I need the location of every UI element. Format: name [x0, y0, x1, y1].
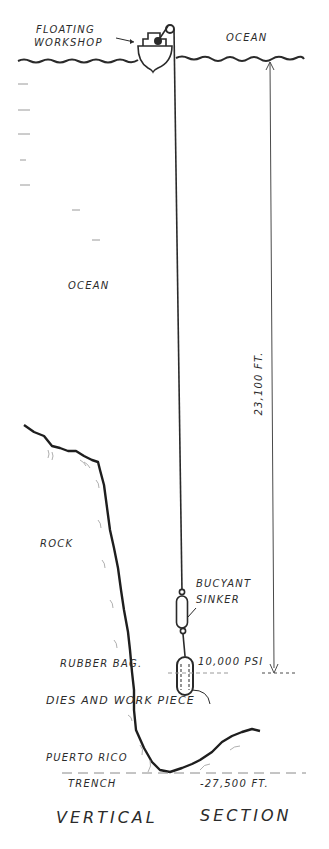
label-dies-and-work-piece: Dies And Work Piece: [46, 694, 195, 707]
label-buoyant-sinker-line1: Bucyant: [196, 578, 251, 589]
label-floating-workshop-line2: Workshop: [34, 37, 103, 48]
water-texture: [18, 84, 100, 240]
label-trench-depth: -27,500 Ft.: [200, 778, 269, 789]
cable-line: [174, 29, 182, 592]
label-puerto-rico: Puerto Rico: [46, 752, 128, 763]
label-ocean-mid: Ocean: [68, 280, 110, 291]
label-buoyant-sinker-line2: Sinker: [196, 594, 240, 605]
diagram-drawing: [0, 0, 329, 849]
label-rock: Rock: [40, 538, 73, 549]
buoyant-sinker-icon: [177, 589, 197, 656]
label-rubber-bag: Rubber Bag.: [60, 658, 142, 669]
label-ocean-surface: Ocean: [226, 32, 268, 43]
label-depth-dimension: 23,100 Ft.: [253, 351, 264, 415]
title-section: Section: [200, 806, 292, 825]
floating-workshop-ship-icon: [138, 25, 174, 72]
vertical-section-diagram: Floating Workshop Ocean Ocean 23,100 Ft.…: [0, 0, 329, 849]
rock-texture: [48, 450, 240, 772]
label-trench: Trench: [68, 778, 117, 789]
title-vertical: Vertical: [56, 808, 158, 827]
depth-dimension-line: [262, 62, 296, 673]
label-floating-workshop-line1: Floating: [36, 24, 95, 35]
label-pressure: 10,000 PSI: [198, 656, 264, 667]
